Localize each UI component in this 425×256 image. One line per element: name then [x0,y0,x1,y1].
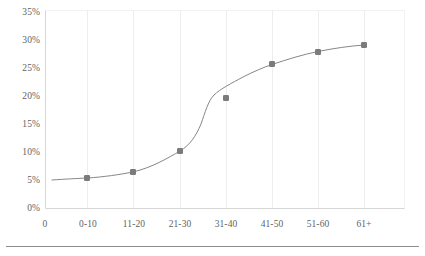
y-tick-label-10: 10% [8,147,40,157]
footer-divider [6,246,419,247]
x-tick-label-21-30: 21-30 [169,219,192,229]
x-tick-label-0-10: 0-10 [79,219,97,229]
data-point-51-60[interactable] [315,49,321,55]
data-point-11-20[interactable] [130,169,136,175]
y-tick-label-30: 30% [8,35,40,45]
plot-area-background [45,10,405,208]
chart-container: 35% 30% 25% 20% 15% 10% 5% 0% 0 0-10 11-… [0,0,425,256]
y-tick-label-35: 35% [8,7,40,17]
y-tick-label-15: 15% [8,119,40,129]
x-tick-label-origin: 0 [43,219,48,229]
data-point-61-plus[interactable] [361,42,367,48]
chart-plot-svg [0,0,425,256]
y-tick-label-20: 20% [8,91,40,101]
x-tick-label-11-20: 11-20 [123,219,145,229]
y-tick-label-5: 5% [8,175,40,185]
data-point-21-30[interactable] [177,148,183,154]
data-point-41-50[interactable] [269,61,275,67]
x-tick-label-51-60: 51-60 [307,219,330,229]
y-tick-label-0: 0% [8,203,40,213]
data-point-31-40[interactable] [223,95,229,101]
x-tick-label-41-50: 41-50 [261,219,284,229]
data-point-0-10[interactable] [84,175,90,181]
x-tick-label-31-40: 31-40 [215,219,238,229]
y-tick-label-25: 25% [8,63,40,73]
x-tick-label-61-plus: 61+ [356,219,371,229]
